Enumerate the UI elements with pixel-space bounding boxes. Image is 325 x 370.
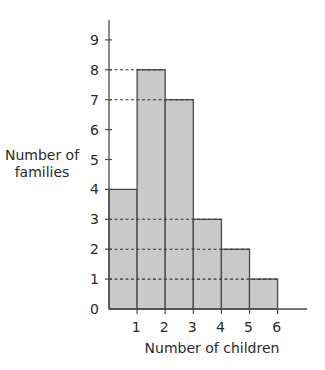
histogram-bar — [165, 100, 193, 309]
x-tick-label: 3 — [188, 319, 197, 335]
y-tick-label: 5 — [90, 152, 99, 168]
histogram-bar — [193, 219, 221, 309]
x-axis-title: Number of children — [145, 340, 280, 356]
y-tick-label: 1 — [90, 271, 99, 287]
x-tick-label: 5 — [244, 319, 253, 335]
y-tick-label: 3 — [90, 211, 99, 227]
y-tick-label: 4 — [90, 181, 99, 197]
y-tick-label: 0 — [90, 301, 99, 317]
bars-group — [109, 70, 278, 309]
x-tick-label: 1 — [132, 319, 141, 335]
histogram-bar — [250, 279, 278, 309]
histogram-chart: 0123456789 123456 Number of families Num… — [0, 0, 325, 370]
y-axis-title-line2: families — [15, 164, 70, 180]
y-tick-label: 2 — [90, 241, 99, 257]
x-tick-label: 4 — [216, 319, 225, 335]
x-tick-label: 2 — [160, 319, 169, 335]
x-tick-label: 6 — [272, 319, 281, 335]
y-tick-label: 7 — [90, 92, 99, 108]
y-tick-label: 6 — [90, 122, 99, 138]
y-tick-label: 9 — [90, 32, 99, 48]
y-tick-label: 8 — [90, 62, 99, 78]
histogram-bar — [137, 70, 165, 309]
x-ticks-group: 123456 — [132, 309, 282, 335]
y-axis-title-line1: Number of — [5, 147, 80, 163]
